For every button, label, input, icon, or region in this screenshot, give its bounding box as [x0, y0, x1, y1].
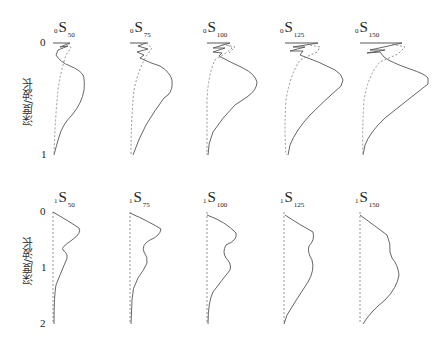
panel-title-bottom-1: 1S50 [54, 190, 75, 209]
y-tick-top-0: 0 [40, 37, 46, 48]
y-axis-label-bottom: 深度/波长 [21, 237, 37, 285]
panel-title-bottom-5: 1S150 [355, 190, 379, 209]
panel-top-4 [285, 43, 343, 155]
y-tick-bottom-0: 0 [40, 206, 46, 217]
panel-title-bottom-2: 1S75 [129, 190, 150, 209]
panel-title-bottom-4: 1S125 [280, 190, 304, 209]
panel-bottom-4 [284, 212, 314, 324]
panel-bottom-2 [130, 212, 161, 324]
panel-bottom-3 [207, 212, 236, 324]
panel-bottom-1 [53, 212, 80, 324]
panel-bottom-5 [360, 212, 399, 324]
panel-title-top-3: 0S100 [203, 20, 227, 39]
panel-title-top-5: 0S150 [355, 20, 379, 39]
panel-top-2 [130, 43, 172, 155]
y-tick-bottom-2: 2 [40, 318, 46, 329]
mode-shape-plots [0, 0, 444, 346]
panel-title-top-4: 0S125 [280, 20, 304, 39]
y-tick-top-1: 1 [41, 149, 47, 160]
panel-title-top-1: 0S50 [54, 20, 75, 39]
panel-title-top-2: 0S75 [130, 20, 151, 39]
y-axis-label-top: 深度/波长 [21, 78, 37, 126]
panel-top-5 [360, 43, 428, 155]
panel-top-1 [53, 43, 84, 155]
panel-top-3 [207, 43, 257, 155]
y-tick-bottom-1: 1 [41, 262, 47, 273]
panel-title-bottom-3: 1S100 [203, 190, 227, 209]
